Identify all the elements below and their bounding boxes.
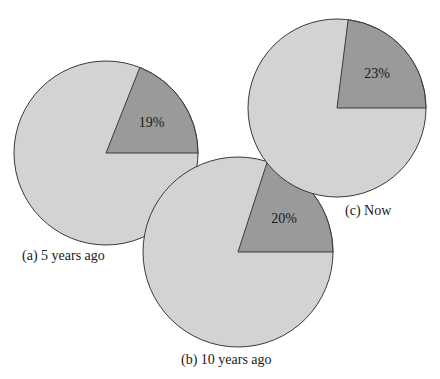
caption-b: (b) 10 years ago xyxy=(181,352,272,368)
caption-a: (a) 5 years ago xyxy=(22,248,105,264)
pie-c: 23% xyxy=(248,19,426,197)
slice-percent-label: 23% xyxy=(364,66,390,81)
pie-charts: 19%20%23% xyxy=(0,0,440,379)
slice-percent-label: 20% xyxy=(271,211,297,226)
caption-c: (c) Now xyxy=(345,203,391,219)
slice-percent-label: 19% xyxy=(139,115,165,130)
pie-highlight-slice xyxy=(337,20,426,108)
